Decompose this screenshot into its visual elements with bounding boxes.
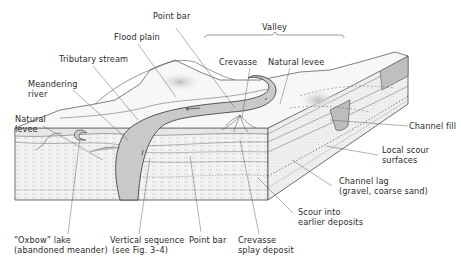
label-channel-fill: Channel fill xyxy=(409,121,456,131)
label-oxbow-1: “Oxbow” lake xyxy=(14,235,71,245)
label-channel-lag-2: (gravel, coarse sand) xyxy=(339,186,428,196)
label-scour-into-1: Scour into xyxy=(298,207,341,217)
label-natural-levee-left-1: Natural xyxy=(15,114,46,124)
label-crevasse: Crevasse xyxy=(219,57,257,67)
label-point-bar-top: Point bar xyxy=(153,11,190,21)
label-natural-levee-top: Natural levee xyxy=(268,57,324,67)
label-vertical-sequence-2: (see Fig. 3–4) xyxy=(112,245,168,255)
label-tributary-stream: Tributary stream xyxy=(59,54,128,64)
label-meandering-river-2: river xyxy=(28,89,47,99)
label-flood-plain: Flood plain xyxy=(114,32,160,42)
label-local-scour-2: surfaces xyxy=(382,155,417,165)
label-natural-levee-left-2: levee xyxy=(15,124,38,134)
valley-brace xyxy=(205,32,344,38)
label-crevasse-splay-2: splay deposit xyxy=(238,245,294,255)
label-local-scour-1: Local scour xyxy=(382,145,429,155)
label-point-bar-bottom: Point bar xyxy=(189,235,226,245)
label-meandering-river-1: Meandering xyxy=(28,79,78,89)
label-oxbow-2: (abandoned meander) xyxy=(14,245,108,255)
label-crevasse-splay-1: Crevasse xyxy=(238,235,276,245)
label-valley: Valley xyxy=(262,22,287,32)
label-channel-lag-1: Channel lag xyxy=(339,176,389,186)
block-diagram xyxy=(0,0,461,268)
label-vertical-sequence-1: Vertical sequence xyxy=(110,235,184,245)
label-scour-into-2: earlier deposits xyxy=(298,217,363,227)
